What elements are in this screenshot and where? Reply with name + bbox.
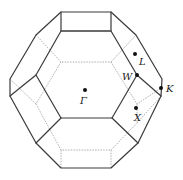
label-w: W xyxy=(122,71,133,82)
label-x: X xyxy=(133,112,142,123)
point-gamma xyxy=(83,88,87,92)
point-w xyxy=(135,73,139,77)
label-k: K xyxy=(165,83,174,94)
diagram-svg: Γ L W K X xyxy=(0,0,183,180)
point-x xyxy=(134,106,138,110)
brillouin-zone-diagram: Γ L W K X xyxy=(0,0,183,180)
label-l: L xyxy=(138,56,146,67)
point-k xyxy=(159,86,163,90)
label-gamma: Γ xyxy=(79,95,88,106)
point-l xyxy=(133,52,137,56)
